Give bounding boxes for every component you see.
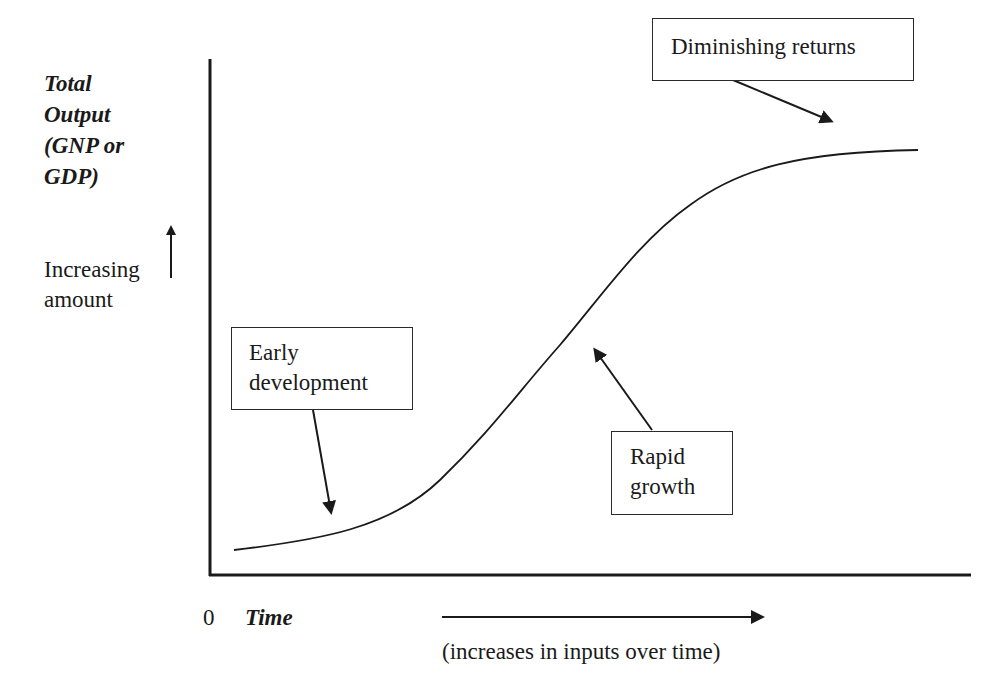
x-axis-title: Time bbox=[245, 603, 293, 633]
diagram-canvas bbox=[0, 0, 1004, 694]
y-axis-title-line: GDP) bbox=[44, 161, 124, 192]
origin-label: 0 bbox=[203, 603, 215, 633]
y-axis-title-line: Total bbox=[44, 68, 124, 99]
y-axis-title-line: Output bbox=[44, 99, 124, 130]
callout-text: Early bbox=[249, 338, 412, 368]
diminishing-returns-arrow-icon bbox=[733, 80, 831, 121]
callout-text: Diminishing returns bbox=[671, 32, 913, 62]
callout-text: Rapid bbox=[630, 442, 732, 472]
y-axis-title: Total Output (GNP or GDP) bbox=[44, 68, 124, 192]
x-axis-subtitle: (increases in inputs over time) bbox=[442, 637, 720, 667]
y-direction-line: amount bbox=[44, 285, 140, 315]
callout-text: growth bbox=[630, 472, 732, 502]
callout-diminishing-returns: Diminishing returns bbox=[652, 18, 914, 81]
callout-rapid-growth: Rapid growth bbox=[611, 431, 733, 515]
axes bbox=[209, 59, 971, 576]
callout-text: development bbox=[249, 368, 412, 398]
callout-early-development: Early development bbox=[231, 327, 413, 410]
rapid-growth-arrow-icon bbox=[595, 350, 652, 430]
y-direction-line: Increasing bbox=[44, 255, 140, 285]
early-development-arrow-icon bbox=[313, 410, 331, 512]
y-axis-title-line: (GNP or bbox=[44, 130, 124, 161]
y-direction-label: Increasing amount bbox=[44, 255, 140, 315]
